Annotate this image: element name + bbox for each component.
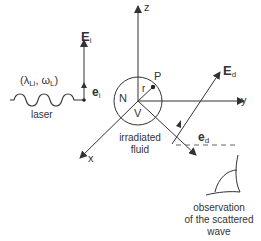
observation-caption: observation of the scattered wave xyxy=(180,202,258,238)
laser-wave xyxy=(10,94,84,106)
laser-parameters: (λLi, ωL) xyxy=(20,75,58,88)
observer-eye-base xyxy=(206,192,240,195)
incident-unit-vector-arrow xyxy=(81,82,87,88)
z-axis-label: z xyxy=(144,2,150,13)
scattered-field-vector xyxy=(172,72,220,144)
position-vector-r xyxy=(138,87,153,101)
observer-eye-lid xyxy=(215,170,237,192)
r-label: r xyxy=(142,84,145,94)
y-axis-label: y xyxy=(241,95,247,106)
v-label: V xyxy=(134,108,141,119)
point-p-dot xyxy=(151,85,155,89)
observer-eye-icon xyxy=(236,155,240,192)
incident-field-label: Ei xyxy=(81,30,91,45)
n-label: N xyxy=(119,93,127,104)
irradiated-fluid-caption: irradiated fluid xyxy=(112,132,168,156)
scattered-unit-vector-arrow xyxy=(176,120,181,128)
laser-label: laser xyxy=(31,110,53,120)
scattered-field-label: Ed xyxy=(223,64,236,79)
point-p-label: P xyxy=(154,71,161,82)
incident-unit-vector-label: ei xyxy=(92,86,100,100)
x-axis-label: x xyxy=(88,153,94,164)
scattered-unit-vector-label: ed xyxy=(198,131,209,145)
